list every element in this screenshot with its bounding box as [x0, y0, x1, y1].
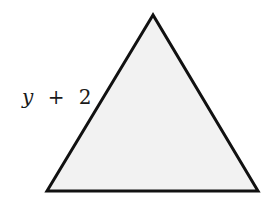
triangle-diagram: y + 2: [0, 0, 264, 206]
label-constant: 2: [79, 85, 92, 109]
left-side-label: y + 2: [21, 85, 92, 109]
label-operator: +: [48, 85, 65, 109]
label-variable: y: [21, 85, 34, 109]
